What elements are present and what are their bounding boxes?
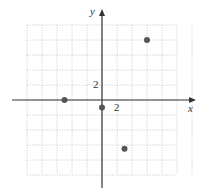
y-axis-label: y — [90, 5, 95, 17]
data-point — [122, 146, 128, 152]
coordinate-plane — [0, 0, 204, 194]
y-tick-label: 2 — [93, 78, 99, 90]
data-point — [144, 37, 150, 43]
data-point — [99, 105, 105, 111]
x-tick-label: 2 — [114, 101, 120, 113]
x-axis-label: x — [188, 102, 193, 114]
y-axis-arrow-icon — [99, 9, 105, 16]
data-point — [62, 97, 68, 103]
